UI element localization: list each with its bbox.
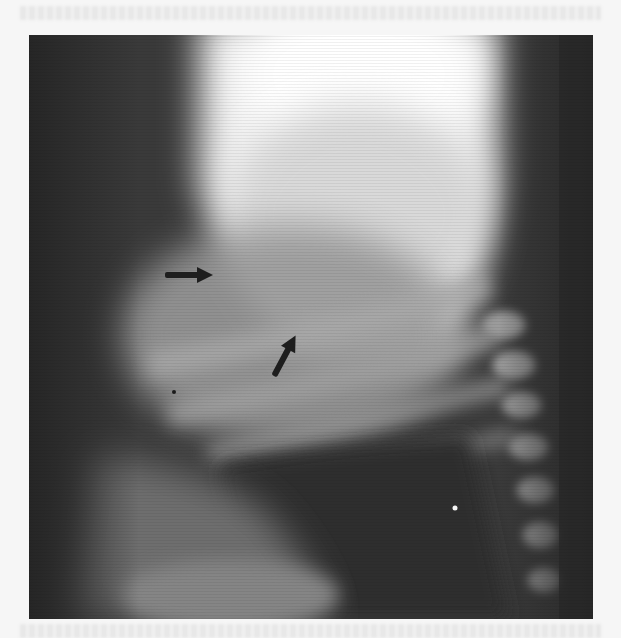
arrow-right-icon	[165, 267, 213, 283]
arrow-up-icon	[267, 332, 303, 380]
annotation-layer	[29, 35, 593, 619]
dark-dot-marker	[172, 390, 176, 394]
white-dot-marker	[453, 506, 458, 511]
page-text-bottom-fragment	[20, 624, 601, 638]
xray-image	[29, 35, 593, 619]
page-text-top-fragment	[20, 6, 601, 20]
